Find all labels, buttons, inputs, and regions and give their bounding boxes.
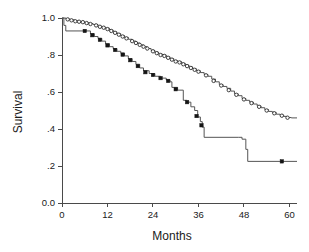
y-tick-label: .4 <box>47 123 55 134</box>
censor-mark-filled-square <box>121 53 124 56</box>
y-axis-title: Survival <box>11 91 25 134</box>
y-axis-ticks <box>58 18 62 203</box>
x-tick-label: 36 <box>193 209 204 220</box>
censor-mark-open-circle <box>142 45 145 48</box>
censor-mark-open-circle <box>94 24 97 27</box>
x-axis-title: Months <box>152 229 191 243</box>
censor-mark-open-circle <box>219 84 222 87</box>
axis-lines <box>62 18 297 203</box>
x-tick-label: 0 <box>59 209 64 220</box>
censor-mark-open-circle <box>77 20 80 23</box>
censor-mark-open-circle <box>151 50 154 53</box>
censor-mark-open-circle <box>130 39 133 42</box>
survival-curve-lower <box>62 18 297 161</box>
censor-mark-open-circle <box>81 20 84 23</box>
censor-mark-open-circle <box>204 74 207 77</box>
censor-mark-open-circle <box>155 51 158 54</box>
censor-mark-filled-square <box>151 73 154 76</box>
x-tick-label: 24 <box>148 209 159 220</box>
censor-mark-open-circle <box>227 88 230 91</box>
censor-mark-open-circle <box>166 56 169 59</box>
censor-mark-open-circle <box>70 19 73 22</box>
y-tick-label: 1.0 <box>42 12 55 23</box>
kaplan-meier-plot: 0.0.2.4.6.81.0 01224364860 Months Surviv… <box>0 0 309 252</box>
survival-curve-upper <box>62 18 297 118</box>
censor-mark-filled-square <box>144 71 147 74</box>
censor-mark-open-circle <box>189 66 192 69</box>
x-axis-tick-labels: 01224364860 <box>59 209 294 220</box>
survival-chart-figure: 0.0.2.4.6.81.0 01224364860 Months Surviv… <box>0 0 309 252</box>
censor-mark-open-circle <box>134 41 137 44</box>
censor-mark-open-circle <box>138 43 141 46</box>
censor-mark-open-circle <box>146 47 149 50</box>
y-tick-label: 0.0 <box>42 197 55 208</box>
x-tick-label: 48 <box>239 209 250 220</box>
censor-mark-filled-square <box>159 76 162 79</box>
censor-mark-open-circle <box>193 68 196 71</box>
censor-mark-open-circle <box>170 58 173 61</box>
censor-mark-filled-square <box>91 34 94 37</box>
censor-mark-filled-square <box>129 58 132 61</box>
censor-mark-open-circle <box>163 54 166 57</box>
x-tick-label: 12 <box>102 209 113 220</box>
y-tick-label: .2 <box>47 160 55 171</box>
censor-mark-filled-square <box>83 29 86 32</box>
censor-mark-open-circle <box>212 79 215 82</box>
censor-mark-filled-square <box>136 64 139 67</box>
censor-mark-open-circle <box>106 27 109 30</box>
censor-mark-open-circle <box>66 18 69 21</box>
x-tick-label: 60 <box>284 209 295 220</box>
censor-mark-open-circle <box>174 60 177 63</box>
censor-mark-open-circle <box>286 116 289 119</box>
censor-mark-filled-square <box>174 88 177 91</box>
censor-mark-open-circle <box>197 70 200 73</box>
censor-mark-open-circle <box>159 53 162 56</box>
censor-mark-open-circle <box>265 109 268 112</box>
censor-mark-filled-square <box>98 38 101 41</box>
censor-mark-open-circle <box>250 101 253 104</box>
censor-mark-filled-square <box>280 160 283 163</box>
censor-mark-open-circle <box>257 105 260 108</box>
censor-mark-open-circle <box>125 37 128 40</box>
censor-mark-filled-square <box>166 79 169 82</box>
censor-mark-open-circle <box>117 33 120 36</box>
censor-mark-open-circle <box>102 26 105 29</box>
censor-mark-filled-square <box>106 44 109 47</box>
y-tick-label: .6 <box>47 86 55 97</box>
censor-mark-open-circle <box>74 20 77 23</box>
x-axis-ticks <box>62 203 289 207</box>
censor-mark-filled-square <box>200 124 203 127</box>
censor-mark-open-circle <box>85 21 88 24</box>
censor-mark-open-circle <box>185 64 188 67</box>
y-tick-label: .8 <box>47 49 55 60</box>
censor-mark-open-circle <box>242 98 245 101</box>
censor-mark-open-circle <box>182 63 185 66</box>
censor-mark-open-circle <box>121 35 124 38</box>
censor-mark-open-circle <box>98 25 101 28</box>
censor-mark-filled-square <box>185 100 188 103</box>
censor-mark-filled-square <box>113 48 116 51</box>
censor-mark-open-circle <box>110 29 113 32</box>
censor-mark-open-circle <box>89 22 92 25</box>
y-axis-tick-labels: 0.0.2.4.6.81.0 <box>42 12 55 208</box>
censor-mark-filled-square <box>195 114 198 117</box>
censor-mark-open-circle <box>280 114 283 117</box>
censor-mark-open-circle <box>113 31 116 34</box>
censor-mark-open-circle <box>235 93 238 96</box>
censor-mark-open-circle <box>273 112 276 115</box>
censor-mark-open-circle <box>178 61 181 64</box>
